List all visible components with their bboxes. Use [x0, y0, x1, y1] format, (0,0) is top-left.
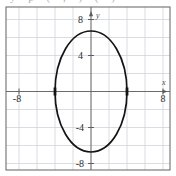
x-tick-label-8: 8 — [161, 93, 166, 104]
y-tick-label-neg8: -8 — [76, 158, 84, 169]
ellipse-graph-figure: y p ( , ) ( ) — [0, 0, 176, 176]
y-tick-label-8: 8 — [78, 14, 83, 25]
y-axis-label: y — [95, 11, 100, 20]
y-tick-label-4: 4 — [78, 50, 83, 61]
x-axis-label: x — [161, 78, 166, 87]
cut-off-header-text: y p ( , ) ( ) — [10, 0, 166, 3]
x-tick-label-neg8: -8 — [13, 93, 21, 104]
graph-canvas: -8 8 8 4 -4 -8 y x — [0, 0, 176, 176]
y-tick-label-neg4: -4 — [76, 122, 84, 133]
